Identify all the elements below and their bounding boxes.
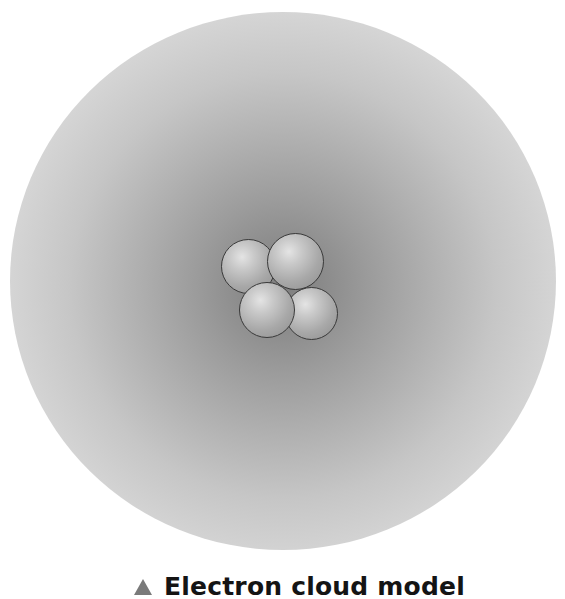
figure-caption: Electron cloud model [134,566,465,599]
caption-text: Electron cloud model [164,572,465,599]
triangle-up-icon [134,579,152,595]
nucleus-particle-top-right [267,233,324,290]
nucleus-particle-bottom-left [239,282,295,338]
